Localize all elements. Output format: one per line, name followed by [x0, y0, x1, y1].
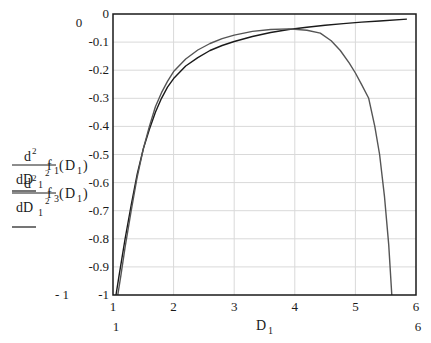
- x-tick-label: 4: [292, 299, 299, 314]
- y-axis-ticks: 0-0.1-0.2-0.3-0.4-0.5-0.6-0.7-0.8-0.9-1: [88, 6, 109, 302]
- chart: 0-0.1-0.2-0.3-0.4-0.5-0.6-0.7-0.8-0.9-1 …: [0, 0, 431, 343]
- y-tick-label: -0.6: [88, 175, 109, 190]
- expr2-denominator-sub: 1: [38, 207, 43, 218]
- expr1-open-paren: (: [59, 158, 64, 174]
- expr1-numerator-sup: 2: [32, 146, 37, 156]
- expr1-denominator-sub: 1: [38, 179, 43, 190]
- y-tick-label: -0.1: [88, 34, 109, 49]
- expr1-argument-sub: 1: [77, 165, 82, 176]
- y-range-max-label: 0: [76, 15, 83, 30]
- x-tick-label: 2: [170, 299, 177, 314]
- y-tick-label: -0.2: [88, 62, 109, 77]
- series-line-f3: [118, 29, 392, 295]
- expr2-open-paren: (: [59, 186, 64, 202]
- series-line-f1: [116, 19, 407, 295]
- x-title-subscript: 1: [268, 325, 273, 336]
- x-axis-title: D 1: [256, 318, 273, 336]
- x-tick-label: 1: [110, 299, 117, 314]
- expr2-numerator-sup: 2: [32, 173, 37, 183]
- x-axis-ticks: 123456: [110, 299, 420, 314]
- plot-series: [116, 19, 407, 295]
- expr1-numerator: d: [24, 149, 31, 164]
- y-tick-label: 0: [103, 6, 110, 21]
- x-tick-label: 5: [352, 299, 359, 314]
- y-tick-label: -0.9: [88, 259, 109, 274]
- y-tick-label: -1: [98, 287, 109, 302]
- y-tick-label: -0.4: [88, 118, 109, 133]
- expr2-denominator: dD: [16, 200, 33, 215]
- expr1-function: f: [47, 158, 52, 173]
- y-range-min-label: - 1: [55, 287, 69, 302]
- expr2-function: f: [47, 186, 52, 201]
- y-tick-label: -0.7: [88, 203, 109, 218]
- expr2-argument: D: [65, 186, 75, 201]
- expr1-close-paren: ): [83, 158, 88, 174]
- expr1-argument: D: [65, 158, 75, 173]
- x-tick-label: 6: [413, 299, 420, 314]
- y-axis-expression-f3: d 2 dD 1 2 f 3 ( D 1 ): [12, 173, 88, 227]
- expr2-numerator-d: d: [24, 176, 31, 191]
- grid-lines: [113, 14, 416, 295]
- y-tick-label: -0.3: [88, 90, 109, 105]
- expr2-argument-sub: 1: [77, 193, 82, 204]
- x-range-min-label: 1: [113, 319, 120, 334]
- x-title-text: D: [256, 318, 266, 333]
- x-range-max-label: 6: [415, 319, 422, 334]
- expr2-close-paren: ): [83, 186, 88, 202]
- y-tick-label: -0.5: [88, 147, 109, 162]
- y-tick-label: -0.8: [88, 231, 109, 246]
- x-tick-label: 3: [231, 299, 238, 314]
